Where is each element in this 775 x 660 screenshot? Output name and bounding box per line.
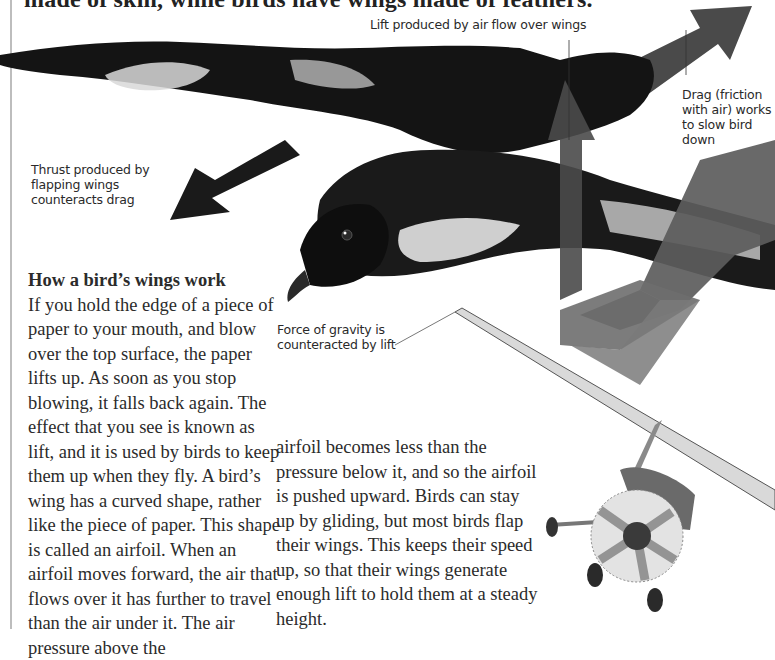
drag-caption: Drag (friction with air) works to slow b… [682, 87, 775, 147]
thrust-arrow-icon [170, 140, 300, 220]
body-paragraph-right: airfoil becomes less than the pressure b… [276, 435, 538, 631]
body-text-left-column: How a bird’s wings work If you hold the … [28, 268, 283, 660]
body-paragraph-left: If you hold the edge of a piece of paper… [28, 293, 283, 660]
body-text-right-column: airfoil becomes less than the pressure b… [276, 435, 538, 631]
lift-caption: Lift produced by air flow over wings [370, 17, 586, 32]
gravity-caption: Force of gravity is counteracted by lift [277, 322, 417, 352]
section-heading: How a bird’s wings work [28, 268, 283, 293]
gravity-arrow-icon [560, 280, 700, 385]
thrust-caption: Thrust produced by flapping wings counte… [31, 162, 171, 207]
